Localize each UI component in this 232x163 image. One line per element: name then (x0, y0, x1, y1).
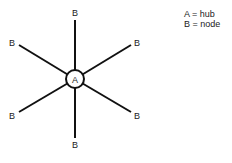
node-label: B (134, 38, 140, 48)
legend-item-node: B = node (184, 19, 220, 29)
legend: A = hub B = node (184, 9, 220, 29)
node-label: B (72, 8, 78, 18)
node-label: B (9, 38, 15, 48)
node-label: B (72, 140, 78, 150)
node-label: B (134, 111, 140, 121)
legend-item-hub: A = hub (184, 9, 220, 19)
node-label: B (9, 111, 15, 121)
hub-label: A (72, 75, 78, 85)
